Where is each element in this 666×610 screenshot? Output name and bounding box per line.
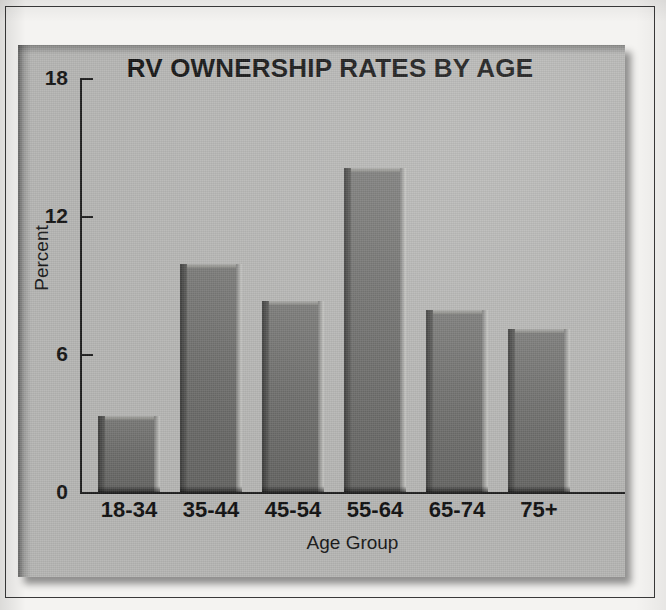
chart-title: RV OWNERSHIP RATES BY AGE [80, 53, 580, 84]
bar-left-shade [508, 329, 515, 492]
y-tick-0 [82, 492, 93, 494]
bar-chart: RV OWNERSHIP RATES BY AGE 18 12 6 0 Perc… [18, 45, 625, 577]
bar-base-shadow [344, 486, 406, 492]
x-axis-label: Age Group [80, 532, 625, 554]
bar-55-64 [344, 168, 406, 492]
bar-right-highlight [318, 301, 324, 492]
bar-right-highlight [400, 168, 406, 492]
bar-75-plus [508, 329, 570, 492]
bar-18-34 [98, 416, 160, 492]
y-tick-label-0: 0 [22, 481, 68, 502]
bar-left-shade [98, 416, 105, 492]
bar-base-shadow [508, 486, 570, 492]
bar-cap [508, 329, 570, 333]
bar-cap [262, 301, 324, 305]
bar-right-highlight [482, 310, 488, 492]
y-axis-line [80, 78, 82, 494]
bar-right-highlight [564, 329, 570, 492]
y-tick-12 [82, 216, 93, 218]
y-tick-6 [82, 354, 93, 356]
bar-cap [180, 264, 242, 268]
scanned-page: RV OWNERSHIP RATES BY AGE 18 12 6 0 Perc… [0, 0, 666, 610]
bar-right-highlight [236, 264, 242, 492]
bar-cap [426, 310, 488, 314]
y-axis-label: Percent [31, 188, 57, 328]
bar-35-44 [180, 264, 242, 492]
y-tick-18 [82, 78, 93, 80]
bar-base-shadow [262, 486, 324, 492]
bar-left-shade [344, 168, 351, 492]
bar-base-shadow [426, 486, 488, 492]
bar-left-shade [426, 310, 433, 492]
bar-base-shadow [180, 486, 242, 492]
bar-right-highlight [154, 416, 160, 492]
y-tick-label-18: 18 [22, 67, 68, 88]
x-axis-line [80, 492, 625, 494]
y-tick-label-6: 6 [22, 343, 68, 364]
bar-65-74 [426, 310, 488, 492]
bar-base-shadow [98, 486, 160, 492]
chart-panel: RV OWNERSHIP RATES BY AGE 18 12 6 0 Perc… [18, 45, 625, 577]
bar-left-shade [180, 264, 187, 492]
bar-45-54 [262, 301, 324, 492]
bar-cap [98, 416, 160, 420]
bar-left-shade [262, 301, 269, 492]
bar-cap [344, 168, 406, 172]
x-tick-label-75-plus: 75+ [489, 497, 589, 523]
